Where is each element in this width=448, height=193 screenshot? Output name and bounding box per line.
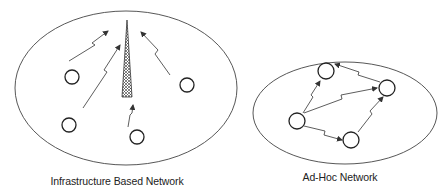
network-diagram <box>0 0 448 193</box>
node-circle <box>318 63 334 79</box>
wireless-link-arrow <box>83 45 120 108</box>
adhoc-boundary-ellipse <box>253 62 437 164</box>
peer-link-arrow <box>335 64 380 82</box>
node-circle <box>130 130 144 144</box>
wireless-link-arrow <box>128 105 133 127</box>
adhoc-network-panel <box>253 62 437 164</box>
adhoc-network-label: Ad-Hoc Network <box>302 171 377 183</box>
node-circle <box>62 118 76 132</box>
infrastructure-network-panel <box>15 11 237 165</box>
peer-link-arrow <box>358 97 383 132</box>
peer-link-arrow <box>304 88 377 113</box>
infrastructure-network-label: Infrastructure Based Network <box>50 175 183 187</box>
node-circle <box>180 78 194 92</box>
node-circle <box>343 132 359 148</box>
cell-tower-icon <box>122 20 132 97</box>
node-circle <box>289 113 305 129</box>
node-circle <box>379 80 395 96</box>
wireless-link-arrow <box>69 31 108 61</box>
peer-link-arrow <box>304 126 342 140</box>
node-circle <box>65 70 79 84</box>
wireless-link-arrow <box>141 32 170 75</box>
